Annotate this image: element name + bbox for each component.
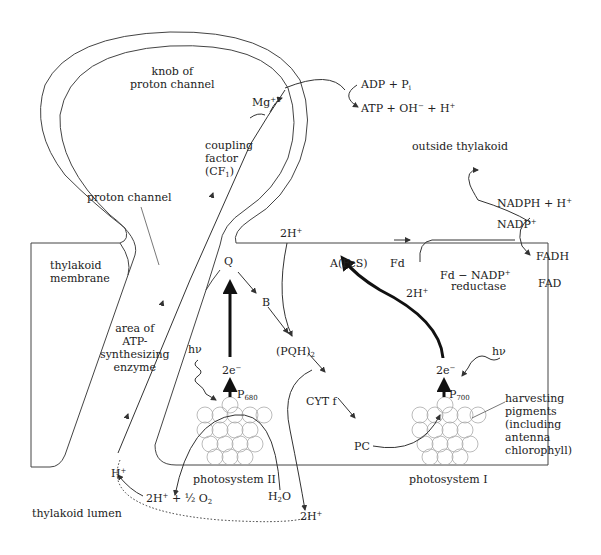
label-knob: knob of proton channel	[130, 65, 215, 91]
label-p680: P680	[237, 388, 258, 405]
thylakoid-diagram: knob of proton channel Mg+2 ADP + Pi ATP…	[0, 0, 601, 555]
label-fad: FAD	[538, 277, 561, 290]
photosystem-i-pigments	[412, 397, 486, 465]
label-2h-fd: 2H+	[406, 285, 428, 300]
label-2h-lumen: 2H+	[300, 508, 322, 523]
label-2e-ps2: 2e−	[222, 362, 241, 377]
label-b: B	[262, 296, 270, 309]
label-nadph: NADPH + H+	[497, 195, 572, 210]
label-photosystem-ii: photosystem II	[193, 473, 276, 486]
label-adp: ADP + Pi	[361, 78, 411, 95]
label-atp: ATP + OH− + H+	[361, 100, 455, 115]
label-hv-ps1: hν	[492, 345, 506, 358]
label-atp-area: area of ATP- synthesizing enzyme	[100, 322, 170, 374]
photosystem-ii-pigments	[197, 397, 272, 465]
label-fadh: FADH	[536, 250, 569, 263]
label-reductase: reductase	[451, 280, 506, 293]
label-2h-top: 2H+	[280, 225, 302, 240]
label-h-plus: H+	[111, 465, 126, 480]
label-fd: Fd	[390, 257, 405, 270]
label-harvesting-pigments: harvesting pigments (including antenna c…	[505, 392, 572, 457]
label-q: Q	[224, 255, 233, 268]
label-outside-thylakoid: outside thylakoid	[412, 140, 508, 153]
label-proton-channel: proton channel	[87, 191, 172, 204]
label-hv-ps2: hν	[188, 343, 202, 356]
label-mg: Mg+2	[252, 94, 281, 109]
label-pc: PC	[354, 440, 370, 453]
label-pqh2: (PQH)2	[276, 345, 315, 362]
label-thylakoid-membrane: thylakoid membrane	[50, 259, 110, 285]
label-afes: A(FeS)	[330, 257, 368, 270]
label-water-split: 2H+ + ½ O2	[146, 490, 212, 509]
label-cyt-f: CYT f	[306, 395, 337, 408]
label-coupling-factor: coupling factor (CF1)	[205, 139, 253, 182]
proton-flow-line	[118, 90, 285, 453]
label-2e-ps1: 2e−	[436, 362, 455, 377]
label-nadp: NADP+	[497, 216, 537, 231]
label-p700: P700	[449, 388, 470, 405]
label-photosystem-i: photosystem I	[409, 473, 488, 486]
label-thylakoid-lumen: thylakoid lumen	[32, 507, 122, 520]
label-h2o: H2O	[268, 490, 291, 507]
